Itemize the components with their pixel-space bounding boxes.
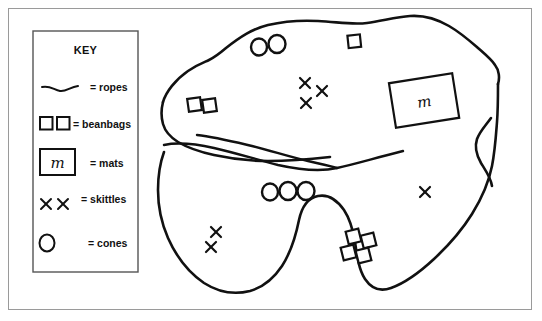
- cone-marker: [298, 182, 315, 200]
- skittle-marker: [420, 187, 430, 197]
- beanbag-icon: [57, 117, 70, 130]
- playground-plan-drawing: KEY = ropes = beanbags m = mats: [0, 0, 542, 321]
- lower-enclosure-right-notch: [476, 118, 492, 186]
- beanbag-marker: [347, 34, 361, 48]
- mat-icon-letter: m: [50, 154, 64, 172]
- beanbag-marker: [361, 233, 377, 249]
- skittle-marker: [206, 242, 216, 252]
- map-skittles-lower-left: [206, 227, 221, 252]
- beanbag-marker: [202, 98, 217, 113]
- key-legend: KEY = ropes = beanbags m = mats: [33, 31, 138, 272]
- key-label-beanbags: = beanbags: [73, 118, 131, 130]
- key-label-skittles: = skittles: [81, 193, 126, 205]
- skittle-marker: [317, 86, 327, 96]
- cone-marker: [280, 182, 297, 200]
- central-rope-lower-strand: [164, 144, 403, 170]
- skittle-marker: [211, 227, 221, 237]
- key-heading: KEY: [74, 44, 98, 56]
- beanbag-marker: [341, 245, 357, 261]
- map-skittle-right: [420, 187, 430, 197]
- map-skittles-upper: [300, 78, 327, 108]
- upper-rope-enclosure-left: [162, 102, 331, 161]
- key-label-ropes: = ropes: [90, 81, 128, 93]
- mat-label: m: [416, 92, 433, 112]
- beanbag-marker: [356, 248, 372, 264]
- figure-canvas: KEY = ropes = beanbags m = mats: [0, 0, 542, 321]
- beanbag-icon: [40, 117, 53, 130]
- cone-marker: [262, 184, 278, 201]
- map-cones-lower: [262, 182, 315, 201]
- map-beanbags-left: [187, 97, 217, 113]
- map-beanbag-top-right: [347, 34, 361, 48]
- cone-marker: [269, 35, 286, 53]
- beanbag-marker: [187, 97, 202, 112]
- skittle-marker: [301, 98, 311, 108]
- cone-marker: [251, 39, 267, 56]
- map-mat: m: [389, 73, 459, 127]
- map-cones-top: [251, 35, 286, 56]
- skittle-marker: [300, 78, 310, 88]
- cone-icon: [40, 235, 55, 252]
- map-beanbags-bottom-right: [341, 229, 377, 264]
- key-label-mats: = mats: [90, 157, 124, 169]
- key-label-cones: = cones: [88, 237, 128, 249]
- beanbag-marker: [346, 229, 362, 245]
